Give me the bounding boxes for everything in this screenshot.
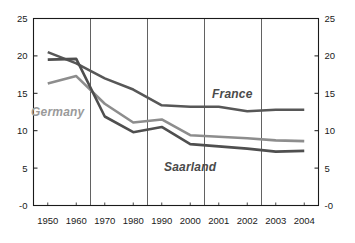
x-axis-label: 2003 bbox=[265, 215, 286, 226]
y-axis-label-left: 20 bbox=[17, 50, 28, 61]
y-axis-label-left: 10 bbox=[17, 125, 28, 136]
y-axis-label-left: 5 bbox=[22, 163, 27, 174]
x-axis-label: 1980 bbox=[123, 215, 144, 226]
y-axis-label-left: -0 bbox=[19, 200, 27, 211]
chart-background bbox=[0, 0, 355, 243]
x-axis-label: 2002 bbox=[237, 215, 258, 226]
x-axis-label: 2001 bbox=[208, 215, 229, 226]
y-axis-label-right: 5 bbox=[325, 163, 330, 174]
x-axis-label: 2000 bbox=[180, 215, 201, 226]
x-axis-label: 1960 bbox=[66, 215, 87, 226]
line-chart: 252015105-0 252015105-0 1950196019701980… bbox=[0, 0, 355, 243]
x-axis-label: 1950 bbox=[37, 215, 58, 226]
x-axis-label: 2004 bbox=[294, 215, 315, 226]
y-axis-label-right: 10 bbox=[325, 125, 336, 136]
x-axis-label: 1970 bbox=[94, 215, 115, 226]
y-axis-label-right: 25 bbox=[325, 13, 336, 24]
series-annotation-germany: Germany bbox=[31, 105, 86, 119]
y-axis-label-right: -0 bbox=[325, 200, 333, 211]
chart-canvas: 252015105-0 252015105-0 1950196019701980… bbox=[0, 0, 355, 243]
y-axis-label-right: 15 bbox=[325, 88, 336, 99]
y-axis-label-left: 25 bbox=[17, 13, 28, 24]
series-annotation-france: France bbox=[212, 87, 253, 101]
x-axis-label: 1990 bbox=[151, 215, 172, 226]
y-axis-label-right: 20 bbox=[325, 50, 336, 61]
y-axis-label-left: 15 bbox=[17, 88, 28, 99]
series-annotation-saarland: Saarland bbox=[164, 160, 217, 174]
